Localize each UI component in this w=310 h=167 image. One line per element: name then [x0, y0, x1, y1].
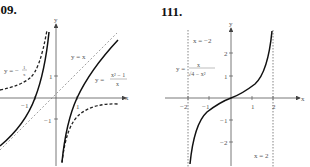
svg-text:−2: −2	[220, 139, 228, 147]
svg-text:x = −2: x = −2	[193, 37, 212, 45]
svg-text:−1: −1	[220, 117, 228, 125]
svg-text:2: 2	[224, 50, 228, 58]
svg-text:y =: y =	[176, 65, 185, 73]
svg-text:x = 2: x = 2	[254, 152, 269, 160]
svg-text:1: 1	[224, 73, 228, 81]
svg-text:x: x	[301, 95, 305, 103]
chart-111: x y −2 −1 1 2 2 1 −1 −2 x = −2 x = 2 y =…	[0, 0, 310, 167]
svg-text:√4 − x²: √4 − x²	[188, 71, 206, 77]
svg-text:y: y	[229, 20, 233, 28]
svg-text:−2: −2	[180, 103, 188, 111]
svg-text:1: 1	[251, 103, 255, 111]
svg-text:2: 2	[272, 103, 276, 111]
svg-text:x: x	[197, 62, 200, 68]
